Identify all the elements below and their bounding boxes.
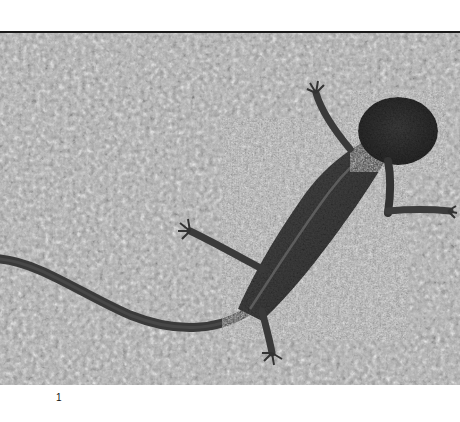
figure-label: 1 — [56, 392, 62, 403]
salamander-photo — [0, 31, 460, 385]
salamander-image — [0, 31, 460, 385]
